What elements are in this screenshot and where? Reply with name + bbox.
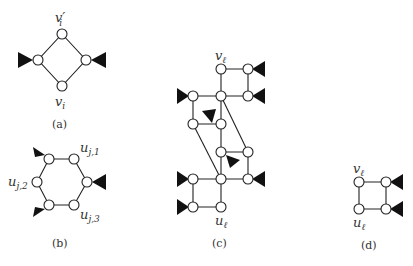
node-v xyxy=(57,81,67,91)
port-triangle-icon xyxy=(177,199,189,215)
node-u-ell xyxy=(216,202,226,212)
node xyxy=(81,55,91,65)
node xyxy=(216,174,226,184)
caption-b: (b) xyxy=(52,237,68,250)
node xyxy=(33,55,43,65)
port-triangle-icon xyxy=(33,147,45,157)
node xyxy=(216,119,226,129)
node xyxy=(243,91,253,101)
node xyxy=(216,91,226,101)
node-u-j3 xyxy=(69,200,79,210)
label-u-j1: uj,1 xyxy=(80,140,100,157)
node xyxy=(82,177,92,187)
figure: v′i vi (a) uj,1 uj,2 uj,3 (b) xyxy=(0,0,413,266)
node xyxy=(44,154,54,164)
hexagon-edges xyxy=(37,159,87,205)
node xyxy=(188,202,198,212)
label-v-prime: v′i xyxy=(55,10,65,28)
port-triangle-icon xyxy=(252,171,265,187)
port-triangle-icon xyxy=(202,109,216,123)
node xyxy=(243,174,253,184)
node xyxy=(188,91,198,101)
node xyxy=(243,64,253,74)
panel-b: uj,1 uj,2 uj,3 (b) xyxy=(8,140,106,250)
node xyxy=(44,200,54,210)
caption-c: (c) xyxy=(212,237,227,250)
port-triangle-icon xyxy=(33,207,45,217)
port-triangle-icon xyxy=(18,52,33,68)
panel-d: vℓ uℓ (d) xyxy=(353,161,403,252)
port-triangle-icon xyxy=(390,201,403,217)
label-u-ell: uℓ xyxy=(215,213,227,230)
port-triangle-icon xyxy=(226,155,240,168)
node-u-ell xyxy=(354,204,364,214)
port-triangle-icon xyxy=(177,88,189,104)
label-v: vi xyxy=(55,94,65,111)
port-triangle-icon xyxy=(91,52,106,68)
caption-d: (d) xyxy=(361,239,377,252)
label-u-j3: uj,3 xyxy=(80,207,100,224)
port-triangle-icon xyxy=(92,174,106,190)
diamond-edges xyxy=(38,34,86,86)
node xyxy=(381,177,391,187)
node xyxy=(188,119,198,129)
port-triangle-icon xyxy=(252,61,265,77)
port-triangle-icon xyxy=(252,88,265,104)
label-v-ell: vℓ xyxy=(215,48,226,65)
node xyxy=(381,204,391,214)
label-v-ell: vℓ xyxy=(353,161,364,178)
port-triangle-icon xyxy=(390,174,403,190)
node-v-prime xyxy=(57,29,67,39)
node-u-j1 xyxy=(69,154,79,164)
node xyxy=(188,174,198,184)
port-triangle-icon xyxy=(177,171,189,187)
node xyxy=(243,147,253,157)
node xyxy=(216,147,226,157)
node-v-ell xyxy=(354,177,364,187)
caption-a: (a) xyxy=(52,118,67,131)
label-u-j2: uj,2 xyxy=(8,174,28,191)
node-u-j2 xyxy=(32,177,42,187)
panel-c: vℓ uℓ (c) xyxy=(177,48,265,250)
panel-a: v′i vi (a) xyxy=(18,10,106,131)
label-u-ell: uℓ xyxy=(353,215,365,232)
node-v-ell xyxy=(216,64,226,74)
